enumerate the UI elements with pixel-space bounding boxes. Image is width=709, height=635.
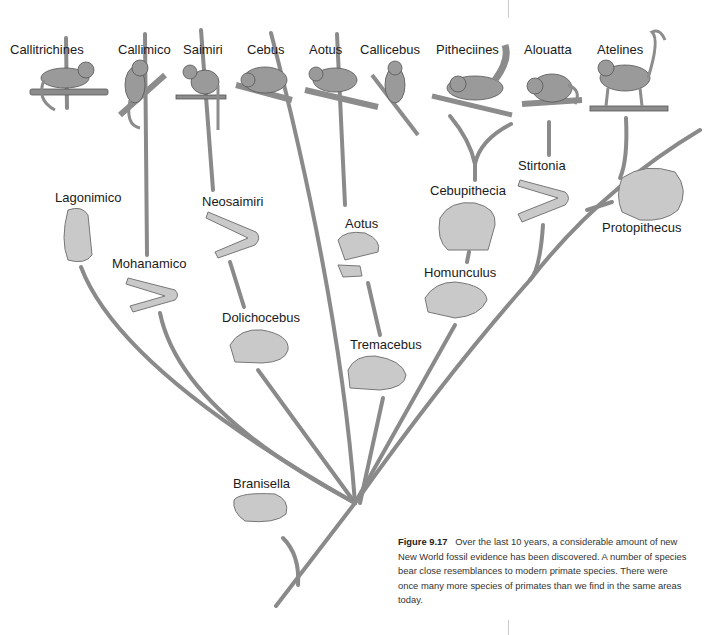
neosaimiri-jaw-icon bbox=[206, 212, 259, 258]
aotus-jaw-icon bbox=[338, 265, 362, 277]
cebupithecia-skull-icon bbox=[439, 203, 495, 250]
figure-number: Figure 9.17 bbox=[398, 536, 448, 547]
homunculus-skull-icon bbox=[425, 282, 487, 318]
protopithecus-skull-icon bbox=[619, 168, 684, 220]
branisella-tooth-icon bbox=[234, 494, 287, 522]
dolichocebus-skull-icon bbox=[230, 330, 288, 363]
stirtonia-jaw-icon bbox=[518, 180, 569, 222]
figure-caption: Figure 9.17 Over the last 10 years, a co… bbox=[398, 535, 688, 608]
lagonimico-fossil-icon bbox=[64, 208, 92, 261]
aotus-skull-icon bbox=[338, 232, 379, 260]
tremacebus-skull-icon bbox=[348, 356, 406, 390]
mohanamico-jaw-icon bbox=[126, 278, 178, 312]
